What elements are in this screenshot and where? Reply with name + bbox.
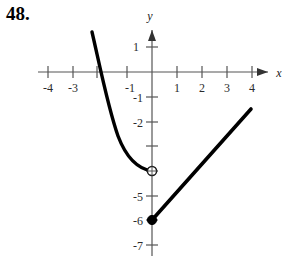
- x-axis-arrow-icon: [257, 68, 268, 76]
- y-axis-arrow-icon: [148, 30, 156, 41]
- x-tick-label--3: -3: [68, 81, 78, 95]
- ray-right-branch: [152, 109, 251, 220]
- x-tick-label-3: 3: [224, 81, 230, 95]
- closed-dot-point: [147, 215, 156, 224]
- y-tick-label-1: 1: [133, 40, 139, 54]
- coordinate-plot: -4 -3 -1 1 2 3 4 x 1 -1 -2 -5: [0, 0, 293, 260]
- y-tick-label--6: -6: [133, 214, 143, 228]
- x-tick-label--4: -4: [43, 81, 53, 95]
- open-circle-point: [147, 166, 156, 175]
- x-axis-label: x: [275, 66, 282, 80]
- y-tick-label--2: -2: [133, 116, 143, 130]
- y-tick-label--1: -1: [133, 91, 143, 105]
- y-tick-label--7: -7: [133, 239, 143, 253]
- y-axis-label: y: [146, 9, 153, 23]
- x-tick-label-4: 4: [249, 81, 255, 95]
- figure-container: 48. -4 -3 -1 1 2 3 4 x: [0, 0, 293, 260]
- x-tick-label-1: 1: [174, 81, 180, 95]
- curve-left-branch: [92, 32, 152, 171]
- x-axis-group: -4 -3 -1 1 2 3 4 x: [38, 66, 282, 95]
- y-tick-label--5: -5: [133, 190, 143, 204]
- x-tick-label-2: 2: [199, 81, 205, 95]
- problem-number-label: 48.: [6, 3, 30, 25]
